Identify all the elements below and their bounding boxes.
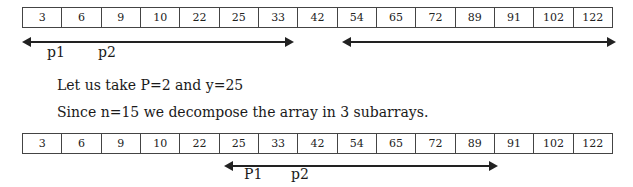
array-cell: 72 xyxy=(416,134,455,153)
array-cell: 6 xyxy=(62,134,101,153)
text-line-1: Let us take P=2 and y=25 xyxy=(57,77,243,93)
array-cell: 42 xyxy=(298,8,337,27)
array-cell: 10 xyxy=(141,8,180,27)
text-line-2: Since n=15 we decompose the array in 3 s… xyxy=(57,104,428,120)
array-cell: 54 xyxy=(338,134,377,153)
label-p1-bottom: P1 xyxy=(244,166,262,182)
array-bottom: 36910222533425465728991102122 xyxy=(22,133,613,154)
arrow-subarray-left xyxy=(28,41,288,43)
label-p1-top: p1 xyxy=(47,44,65,60)
arrow-subarray-right xyxy=(348,41,610,43)
array-cell: 72 xyxy=(416,8,455,27)
array-cell: 25 xyxy=(220,134,259,153)
array-cell: 102 xyxy=(534,134,573,153)
array-cell: 102 xyxy=(534,8,573,27)
array-cell: 3 xyxy=(23,134,62,153)
array-cell: 6 xyxy=(62,8,101,27)
array-cell: 54 xyxy=(338,8,377,27)
array-cell: 89 xyxy=(456,134,495,153)
array-cell: 65 xyxy=(377,134,416,153)
arrow-subarray-middle xyxy=(230,165,492,167)
array-cell: 22 xyxy=(180,8,219,27)
array-cell: 33 xyxy=(259,134,298,153)
array-cell: 3 xyxy=(23,8,62,27)
array-cell: 25 xyxy=(220,8,259,27)
array-cell: 89 xyxy=(456,8,495,27)
array-cell: 9 xyxy=(102,134,141,153)
array-cell: 22 xyxy=(180,134,219,153)
array-cell: 91 xyxy=(495,134,534,153)
label-p2-top: p2 xyxy=(98,44,116,60)
array-top: 36910222533425465728991102122 xyxy=(22,7,613,28)
array-cell: 42 xyxy=(298,134,337,153)
label-p2-bottom: p2 xyxy=(291,166,309,182)
array-cell: 65 xyxy=(377,8,416,27)
array-cell: 122 xyxy=(574,8,612,27)
array-cell: 9 xyxy=(102,8,141,27)
array-cell: 122 xyxy=(574,134,612,153)
array-cell: 91 xyxy=(495,8,534,27)
array-cell: 33 xyxy=(259,8,298,27)
array-cell: 10 xyxy=(141,134,180,153)
